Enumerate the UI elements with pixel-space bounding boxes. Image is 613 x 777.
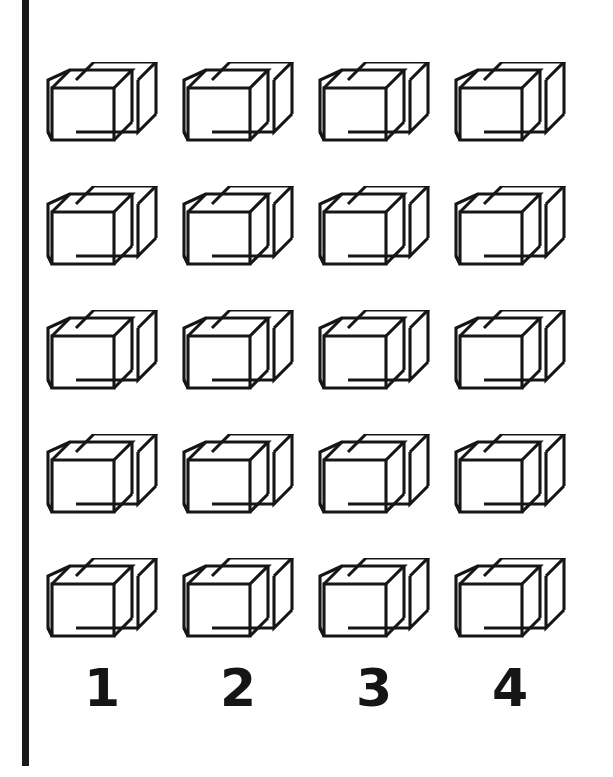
cube-row-2	[38, 186, 578, 282]
cube-grid	[38, 62, 578, 652]
cube-row-5	[38, 558, 578, 654]
cube-r5-c4	[446, 558, 574, 654]
column-label-2: 2	[174, 658, 302, 718]
cube-r1-c3	[310, 62, 438, 158]
cube-row-4	[38, 434, 578, 530]
cube-row-3	[38, 310, 578, 406]
cube-r3-c4	[446, 310, 574, 406]
cube-r2-c1	[38, 186, 166, 282]
cube-r2-c2	[174, 186, 302, 282]
cube-r3-c3	[310, 310, 438, 406]
cube-row-1	[38, 62, 578, 158]
cube-r1-c2	[174, 62, 302, 158]
cube-r2-c4	[446, 186, 574, 282]
cube-r3-c2	[174, 310, 302, 406]
cube-r5-c3	[310, 558, 438, 654]
cube-r4-c4	[446, 434, 574, 530]
column-label-1: 1	[38, 658, 166, 718]
cube-r4-c3	[310, 434, 438, 530]
cube-r4-c1	[38, 434, 166, 530]
cube-r5-c2	[174, 558, 302, 654]
cube-r3-c1	[38, 310, 166, 406]
column-label-4: 4	[446, 658, 574, 718]
cube-r2-c3	[310, 186, 438, 282]
column-label-3: 3	[310, 658, 438, 718]
column-label-row: 1234	[38, 658, 578, 722]
figure-page: 1234	[0, 0, 613, 777]
cube-r1-c1	[38, 62, 166, 158]
left-vertical-rule	[22, 0, 29, 766]
cube-r5-c1	[38, 558, 166, 654]
cube-r1-c4	[446, 62, 574, 158]
cube-r4-c2	[174, 434, 302, 530]
